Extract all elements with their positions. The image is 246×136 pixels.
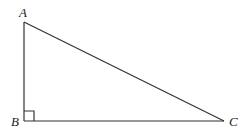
edge-ac bbox=[24, 22, 224, 121]
vertex-label-b: B bbox=[11, 114, 19, 129]
vertex-label-c: C bbox=[229, 114, 238, 129]
triangle-diagram: A B C bbox=[0, 0, 246, 136]
vertex-label-a: A bbox=[18, 5, 27, 20]
right-angle-marker bbox=[24, 111, 34, 121]
